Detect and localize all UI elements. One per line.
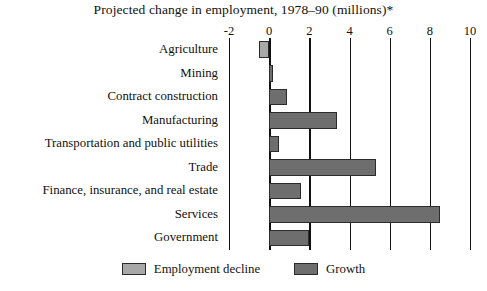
chart-title: Projected change in employment, 1978–90 … [0, 2, 487, 18]
chart-row: Trade [0, 156, 487, 180]
bar-growth [269, 183, 301, 200]
category-label: Mining [180, 62, 225, 86]
legend-swatch [294, 263, 318, 275]
employment-change-bar-chart: Projected change in employment, 1978–90 … [0, 0, 487, 291]
x-tick-label: -2 [224, 24, 234, 38]
category-label: Trade [189, 156, 225, 180]
x-tick-label: 8 [427, 24, 433, 38]
bar-growth [269, 89, 287, 106]
category-label: Finance, insurance, and real estate [42, 179, 225, 203]
chart-row: Agriculture [0, 38, 487, 62]
legend-swatch [122, 263, 146, 275]
chart-row: Government [0, 226, 487, 250]
chart-rows: AgricultureMiningContract constructionMa… [0, 38, 487, 250]
category-label: Agriculture [159, 38, 225, 62]
category-label: Services [175, 203, 225, 227]
bar-growth [269, 65, 273, 82]
chart-row: Contract construction [0, 85, 487, 109]
bar-growth [269, 230, 309, 247]
chart-row: Transportation and public utilities [0, 132, 487, 156]
bar-growth [269, 159, 375, 176]
category-label: Transportation and public utilities [45, 132, 225, 156]
bar-growth [269, 136, 279, 153]
category-label: Manufacturing [142, 109, 225, 133]
category-label: Government [154, 226, 225, 250]
category-label: Contract construction [107, 85, 225, 109]
x-tick-label: 4 [346, 24, 352, 38]
chart-row: Manufacturing [0, 109, 487, 133]
legend-item: Growth [294, 262, 365, 277]
bar-decline [259, 41, 269, 58]
chart-row: Services [0, 203, 487, 227]
chart-legend: Employment declineGrowth [0, 258, 487, 280]
legend-label: Growth [326, 262, 365, 277]
bar-growth [269, 206, 440, 223]
x-tick-label: 10 [464, 24, 477, 38]
legend-label: Employment decline [154, 262, 260, 277]
bar-growth [269, 112, 337, 129]
legend-item: Employment decline [122, 262, 260, 277]
chart-row: Mining [0, 62, 487, 86]
x-tick-label: 2 [306, 24, 312, 38]
x-tick-label: 0 [266, 24, 272, 38]
x-tick-label: 6 [387, 24, 393, 38]
chart-row: Finance, insurance, and real estate [0, 179, 487, 203]
x-axis-tick-labels: -20246810 [0, 24, 487, 38]
